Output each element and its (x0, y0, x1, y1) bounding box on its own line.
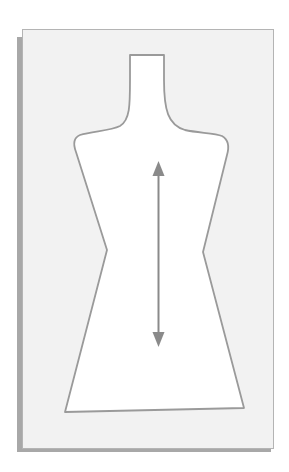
pattern-piece-outline (65, 55, 244, 412)
pattern-illustration (0, 0, 289, 472)
